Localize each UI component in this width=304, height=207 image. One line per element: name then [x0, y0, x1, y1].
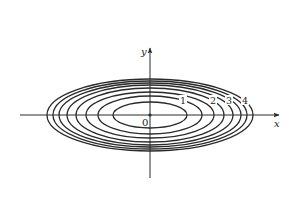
contour-label-4: 4 [242, 95, 248, 106]
origin-point [148, 113, 151, 116]
contour-label-3: 3 [226, 95, 232, 106]
contour-label-2: 2 [210, 95, 216, 106]
contour-label-1: 1 [180, 95, 186, 106]
y-axis-label: y [140, 46, 147, 57]
x-axis-label: x [274, 118, 280, 129]
contour-diagram: y x 0 1 2 3 4 [0, 0, 304, 207]
diagram-svg: y x 0 1 2 3 4 [0, 0, 304, 207]
origin-label: 0 [142, 117, 148, 128]
